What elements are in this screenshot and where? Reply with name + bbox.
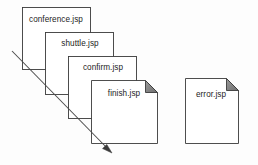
page-node-error[interactable]: error.jsp xyxy=(186,79,239,144)
page-node-finish[interactable]: finish.jsp xyxy=(92,81,158,144)
flow-arrow-head xyxy=(103,144,113,153)
diagram-canvas: conference.jsp shuttle.jsp confirm.jsp f… xyxy=(0,0,258,165)
page-label-conference: conference.jsp xyxy=(29,15,83,24)
page-label-error: error.jsp xyxy=(196,90,226,99)
page-fold-corner-finish xyxy=(146,81,158,93)
page-fold-corner-error xyxy=(227,79,239,91)
page-label-confirm: confirm.jsp xyxy=(83,63,124,72)
page-label-shuttle: shuttle.jsp xyxy=(61,39,99,48)
page-label-finish: finish.jsp xyxy=(108,89,141,98)
